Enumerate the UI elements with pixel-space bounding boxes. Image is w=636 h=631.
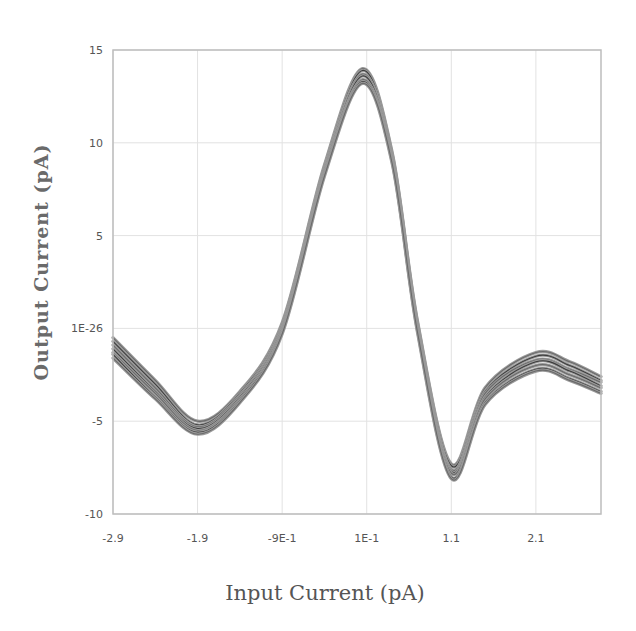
x-tick-label: 2.1 [527, 532, 545, 545]
y-tick-label: 5 [96, 230, 103, 243]
curve-2 [113, 70, 601, 467]
curve-1 [113, 68, 601, 465]
x-axis-label: Input Current (pA) [225, 581, 425, 605]
curve-halo [113, 70, 601, 467]
x-tick-label: -9E-1 [268, 532, 297, 545]
curve-4 [113, 76, 601, 473]
y-axis-label: Output Current (pA) [30, 144, 52, 381]
y-axis-ticks: 151051E-26-5-10 [71, 44, 103, 521]
x-tick-label: -2.9 [102, 532, 123, 545]
data-curves [113, 68, 601, 480]
y-tick-label: 1E-26 [71, 322, 103, 335]
y-tick-label: 15 [89, 44, 103, 57]
y-tick-label: -5 [92, 415, 103, 428]
curve-halo [113, 76, 601, 473]
plot-frame [113, 50, 601, 514]
gridlines [113, 50, 601, 514]
curve-3 [113, 74, 601, 471]
curve-halo [113, 74, 601, 471]
chart: 151051E-26-5-10 -2.9-1.9-9E-11E-11.12.1 … [0, 0, 636, 631]
y-tick-label: -10 [85, 508, 103, 521]
x-tick-label: 1.1 [443, 532, 461, 545]
x-tick-label: -1.9 [187, 532, 208, 545]
x-tick-label: 1E-1 [354, 532, 379, 545]
curve-halo [113, 68, 601, 465]
x-axis-ticks: -2.9-1.9-9E-11E-11.12.1 [102, 532, 544, 545]
y-tick-label: 10 [89, 137, 103, 150]
